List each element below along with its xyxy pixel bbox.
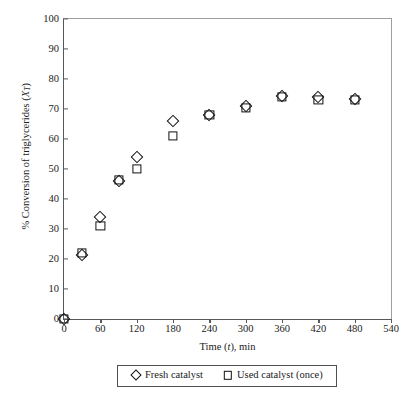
data-point <box>205 110 214 119</box>
data-point <box>241 103 250 112</box>
x-axis-tick-label: 240 <box>201 324 217 335</box>
x-axis-tick-label: 360 <box>274 324 290 335</box>
x-axis-title-suffix: ), min <box>230 341 255 352</box>
x-axis-tick-label: 120 <box>129 324 145 335</box>
data-points-layer <box>64 19 391 319</box>
plot-area: 0102030405060708090100060120180240300360… <box>63 18 392 320</box>
x-axis-tick-label: 0 <box>61 324 66 335</box>
y-axis-tick-label: 60 <box>49 134 65 145</box>
legend-item: Used catalyst (once) <box>223 370 323 381</box>
x-axis-tick-label: 480 <box>347 324 363 335</box>
y-axis-tick-label: 80 <box>49 74 65 85</box>
x-axis-tick-label: 60 <box>95 324 106 335</box>
y-axis-tick-label: 100 <box>43 14 64 25</box>
y-axis-tick-label: 30 <box>49 224 65 235</box>
y-axis-tick-mark <box>64 258 68 259</box>
chart-legend: Fresh catalystUsed catalyst (once) <box>117 365 337 387</box>
y-axis-title-prefix: % Conversion of triglycerides ( <box>20 97 31 229</box>
x-axis-title: Time (t), min <box>63 341 392 352</box>
data-point <box>350 95 359 104</box>
y-axis-tick-label: 40 <box>49 194 65 205</box>
square-marker-icon <box>223 371 232 380</box>
y-axis-title-suffix: ) <box>20 83 31 87</box>
y-axis-title-variable: X <box>20 91 31 97</box>
y-axis-tick-mark <box>64 228 68 229</box>
x-axis-tick-label: 300 <box>238 324 254 335</box>
data-point <box>130 151 143 164</box>
legend-item: Fresh catalyst <box>131 370 203 381</box>
legend-item-label: Used catalyst (once) <box>237 370 323 381</box>
data-point <box>167 115 180 128</box>
y-axis-tick-mark <box>64 18 68 19</box>
x-axis-tick-label: 420 <box>310 324 326 335</box>
y-axis-tick-label: 70 <box>49 104 65 115</box>
scatter-chart-figure: 0102030405060708090100060120180240300360… <box>0 0 411 412</box>
y-axis-tick-mark <box>64 78 68 79</box>
y-axis-tick-mark <box>64 288 68 289</box>
y-axis-tick-mark <box>64 108 68 109</box>
y-axis-title: % Conversion of triglycerides (XT) <box>20 36 33 276</box>
data-point <box>114 176 123 185</box>
data-point <box>132 164 141 173</box>
data-point <box>96 221 105 230</box>
legend-item-label: Fresh catalyst <box>145 370 203 381</box>
y-axis-title-subscript: T <box>23 87 32 91</box>
x-axis-tick-label: 540 <box>383 324 399 335</box>
y-axis-tick-label: 90 <box>49 44 65 55</box>
y-axis-tick-mark <box>64 168 68 169</box>
y-axis-tick-label: 10 <box>49 284 65 295</box>
data-point <box>168 131 177 140</box>
x-axis-tick-label: 180 <box>165 324 181 335</box>
y-axis-tick-label: 20 <box>49 254 65 265</box>
x-axis-title-prefix: Time ( <box>200 341 228 352</box>
y-axis-tick-mark <box>64 138 68 139</box>
y-axis-tick-mark <box>64 198 68 199</box>
y-axis-tick-label: 50 <box>49 164 65 175</box>
data-point <box>78 248 87 257</box>
data-point <box>314 95 323 104</box>
data-point <box>277 92 286 101</box>
y-axis-tick-mark <box>64 48 68 49</box>
diamond-marker-icon <box>131 371 140 380</box>
